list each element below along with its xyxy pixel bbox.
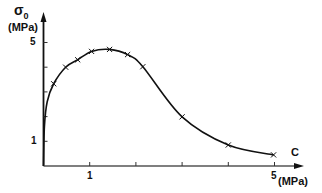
x-axis-arrow-icon: [294, 163, 304, 169]
chart-canvas: [0, 0, 322, 193]
x-marker-icon: [180, 114, 185, 119]
data-markers: [51, 47, 276, 158]
y-axis-unit: (MPa): [8, 21, 38, 33]
y-axis-symbol: σ0: [14, 2, 29, 21]
x-marker-icon: [75, 57, 80, 62]
y-axis-arrow-icon: [41, 12, 47, 22]
axes: [41, 12, 305, 169]
x-tick-label-5: 5: [271, 170, 277, 181]
x-axis-symbol: C: [291, 146, 299, 158]
data-curve: [44, 49, 274, 166]
x-tick-label-1: 1: [87, 170, 93, 181]
y-tick-label-5: 5: [30, 36, 36, 47]
x-marker-icon: [125, 52, 130, 57]
x-axis-unit: (MPa): [278, 175, 308, 187]
x-marker-icon: [63, 65, 68, 70]
series-line: [44, 49, 274, 166]
y-tick-label-1: 1: [31, 135, 37, 146]
x-marker-icon: [51, 81, 56, 86]
x-marker-icon: [140, 64, 145, 69]
